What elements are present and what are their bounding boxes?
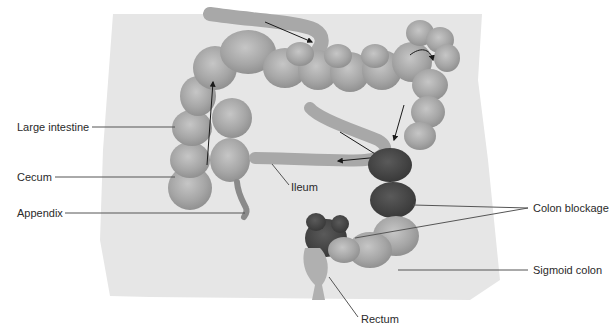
label-cecum: Cecum: [17, 171, 52, 183]
label-appendix: Appendix: [17, 207, 63, 219]
label-rectum: Rectum: [361, 313, 399, 325]
label-large-intestine: Large intestine: [17, 121, 89, 133]
label-sigmoid-colon: Sigmoid colon: [533, 264, 602, 276]
label-ileum: Ileum: [291, 181, 318, 193]
colon-diagram: [0, 0, 615, 335]
label-colon-blockage: Colon blockage: [533, 202, 609, 214]
